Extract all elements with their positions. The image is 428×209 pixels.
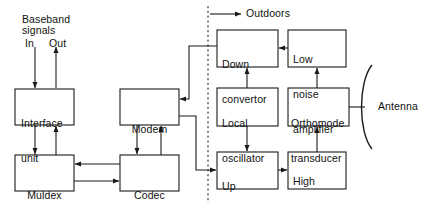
outdoors-label: Outdoors	[246, 8, 290, 20]
block-label-line: Low	[293, 54, 334, 66]
baseband-signals-label-line2: signals	[22, 25, 55, 37]
block-label-modem: Modem	[120, 101, 179, 159]
block-label-line: Orthomode	[291, 118, 344, 130]
block-label-line: High	[293, 176, 334, 188]
block-diagram-canvas: Baseband signals In Out Outdoors Antenna…	[0, 0, 428, 209]
block-label-line: unit	[21, 153, 63, 165]
wire-down-convertor-to-modem	[180, 46, 217, 99]
block-label-line: Up	[222, 181, 267, 193]
block-label-line: Interface	[21, 118, 63, 130]
block-label-line: Modem	[120, 124, 179, 136]
block-label-high-power-amplifier: High power amplifier	[293, 153, 334, 209]
wire-modem-to-up-convertor	[179, 116, 216, 170]
baseband-in-label: In	[25, 38, 34, 50]
block-label-up-convertor: Up convertor	[222, 158, 267, 209]
block-label-line: Codec	[120, 190, 179, 202]
block-label-line: Local	[222, 118, 264, 130]
block-label-line: Muldex	[15, 190, 74, 202]
block-label-line: Down	[222, 59, 267, 71]
block-label-muldex: Muldex	[15, 167, 74, 209]
antenna-label: Antenna	[378, 101, 418, 113]
block-label-codec: Codec	[120, 167, 179, 209]
baseband-out-label: Out	[49, 38, 66, 50]
